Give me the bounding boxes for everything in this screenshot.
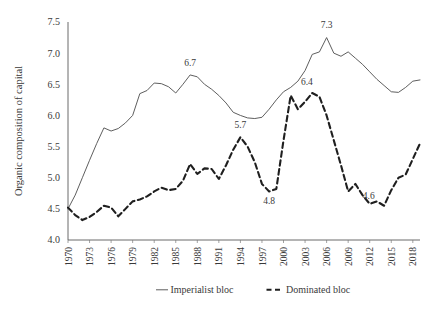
x-tick-label: 1997 (258, 247, 268, 266)
data-point-label: 7.3 (321, 20, 333, 30)
y-tick-label: 4.0 (48, 234, 61, 245)
y-tick-label: 7.0 (48, 48, 61, 59)
axis-frame (68, 22, 420, 240)
y-axis-title-text: Organic composition of capital (13, 66, 24, 196)
legend-label-imperialist-bloc[interactable]: Imperialist bloc (171, 284, 235, 295)
x-tick-label: 1973 (85, 247, 95, 266)
x-tick-label: 1985 (171, 247, 181, 266)
x-axis-tick-labels: 1970197319761979198219851988199119941997… (64, 240, 419, 266)
x-tick-label: 1988 (193, 247, 203, 266)
x-tick-label: 2015 (387, 247, 397, 266)
y-tick-label: 7.5 (48, 16, 61, 27)
legend-label-dominated-bloc[interactable]: Dominated bloc (286, 284, 351, 295)
y-tick-label: 5.0 (48, 172, 61, 183)
data-point-label: 5.7 (234, 120, 246, 130)
x-tick-label: 2012 (365, 247, 375, 266)
data-point-label: 4.6 (363, 191, 375, 201)
x-tick-label: 1991 (214, 247, 224, 266)
y-tick-label: 6.5 (48, 79, 61, 90)
series-line-dominated-bloc (68, 93, 420, 220)
axis-lines (68, 22, 420, 240)
data-point-label: 4.8 (263, 196, 275, 206)
x-tick-label: 1994 (236, 247, 246, 266)
y-tick-label: 5.5 (48, 141, 61, 152)
y-tick-label: 6.0 (48, 110, 61, 121)
x-tick-label: 1970 (64, 247, 74, 266)
x-tick-label: 1982 (150, 247, 160, 266)
y-tick-label: 4.5 (48, 203, 61, 214)
x-tick-label: 1976 (107, 247, 117, 266)
line-chart: Organic composition of capital 4.04.55.0… (0, 0, 437, 311)
y-axis-tick-labels: 4.04.55.05.56.06.57.07.5 (48, 16, 61, 245)
y-axis-title: Organic composition of capital (13, 66, 24, 196)
data-point-labels: 6.75.74.86.47.34.6 (184, 20, 375, 207)
x-tick-label: 2018 (408, 247, 418, 266)
x-tick-label: 2000 (279, 247, 289, 266)
x-tick-label: 1979 (128, 247, 138, 266)
x-tick-label: 2006 (322, 247, 332, 266)
chart-legend[interactable]: Imperialist blocDominated bloc (156, 284, 351, 295)
chart-container: Organic composition of capital 4.04.55.0… (0, 0, 437, 311)
data-point-label: 6.7 (184, 58, 196, 68)
x-tick-label: 2003 (301, 247, 311, 266)
x-tick-label: 2009 (344, 247, 354, 266)
data-point-label: 6.4 (301, 77, 313, 87)
